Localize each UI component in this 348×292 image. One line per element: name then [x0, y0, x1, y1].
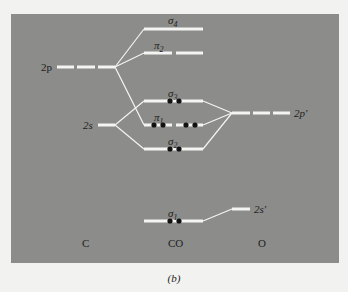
column-label-o: O [258, 238, 266, 249]
correlation-lines [115, 29, 232, 221]
o-2s-label: 2s' [254, 204, 266, 215]
sigma4-label: σ4 [168, 15, 177, 29]
column-label-co: CO [168, 238, 183, 249]
column-label-c: C [82, 238, 89, 249]
o-2p-label: 2p' [294, 108, 307, 119]
pi1-label: π1 [154, 112, 164, 126]
pi2-label: π2 [154, 40, 164, 54]
sigma3-label: σ3 [168, 88, 177, 102]
c-2s-label: 2s [83, 120, 93, 131]
figure-caption: (b) [0, 272, 348, 284]
c-2p-label: 2p [41, 62, 52, 73]
sigma2-label: σ2 [168, 136, 177, 150]
sigma1-label: σ1 [168, 208, 177, 222]
